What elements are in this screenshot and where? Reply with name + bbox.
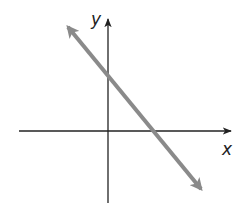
y-axis-label: y — [90, 9, 102, 29]
coordinate-plane: y x — [0, 0, 243, 223]
x-axis-label: x — [221, 139, 233, 159]
plotted-line — [68, 27, 201, 189]
